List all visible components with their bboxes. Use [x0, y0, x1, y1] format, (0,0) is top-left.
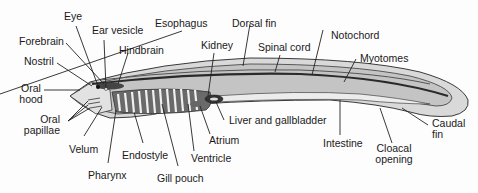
label-forebrain: Forebrain: [19, 36, 64, 47]
label-dorsal-fin: Dorsal fin: [232, 18, 276, 29]
label-cloacal-opening: Cloacal opening: [373, 143, 415, 165]
label-endostyle: Endostyle: [122, 150, 168, 161]
label-gill-pouch: Gill pouch: [157, 173, 204, 184]
label-velum: Velum: [69, 144, 98, 155]
label-caudal-fin: Caudal fin: [432, 118, 465, 140]
brain: [96, 83, 124, 90]
diagram-canvas: Eye Ear vesicle Forebrain Hindbrain Nost…: [0, 0, 478, 193]
label-liver-gallbladder: Liver and gallbladder: [229, 115, 326, 126]
label-kidney: Kidney: [201, 40, 233, 51]
label-notochord: Notochord: [331, 30, 379, 41]
label-spinal-cord: Spinal cord: [258, 42, 311, 53]
label-cloacal-opening-line2: opening: [375, 153, 412, 165]
label-oral-papillae: Oral papillae: [14, 114, 60, 136]
label-atrium: Atrium: [209, 135, 239, 146]
label-myotomes: Myotomes: [360, 53, 408, 64]
label-oral-hood-line2: hood: [19, 93, 42, 105]
label-oral-papillae-line2: papillae: [24, 124, 60, 136]
label-esophagus: Esophagus: [155, 18, 208, 29]
label-pharynx: Pharynx: [88, 170, 127, 181]
label-oral-hood: Oral hood: [14, 83, 48, 105]
label-hindbrain: Hindbrain: [119, 45, 164, 56]
label-nostril: Nostril: [24, 56, 54, 67]
label-ventricle: Ventricle: [191, 153, 231, 164]
label-caudal-fin-line2: fin: [432, 128, 443, 140]
label-eye: Eye: [64, 11, 82, 22]
label-ear-vesicle: Ear vesicle: [92, 25, 143, 36]
label-intestine: Intestine: [323, 138, 363, 149]
